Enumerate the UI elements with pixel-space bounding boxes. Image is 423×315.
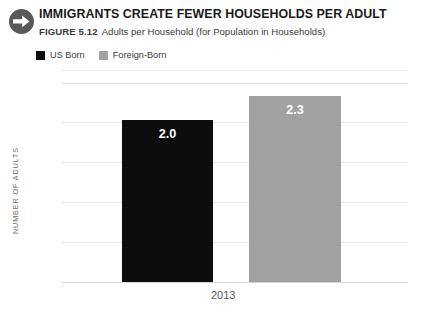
arrow-right-circle-icon bbox=[9, 9, 34, 34]
bar-value-us-born: 2.0 bbox=[122, 127, 213, 141]
x-tick-2013: 2013 bbox=[211, 289, 235, 301]
chart-legend: US Born Foreign-Born bbox=[36, 48, 180, 62]
legend-item-foreign-born: Foreign-Born bbox=[99, 50, 167, 60]
gridline-1-5 bbox=[62, 162, 408, 163]
plot-area: 2.5 2.0 1.5 1.0 0.5 0.0 2.0 2.3 bbox=[62, 71, 408, 283]
gridline-2-5 bbox=[62, 83, 408, 84]
bar-us-born: 2.0 bbox=[122, 120, 213, 282]
gridline-2-0 bbox=[62, 122, 408, 123]
y-axis-title-text: NUMBER OF ADULTS bbox=[11, 147, 20, 234]
figure-subtitle: Adults per Household (for Population in … bbox=[102, 26, 325, 37]
figure-number: FIGURE 5.12 bbox=[39, 26, 98, 37]
bar-foreign-born: 2.3 bbox=[249, 96, 341, 282]
axis-baseline bbox=[62, 282, 408, 283]
legend-label-foreign-born: Foreign-Born bbox=[113, 50, 167, 60]
figure-caption: FIGURE 5.12Adults per Household (for Pop… bbox=[39, 26, 325, 38]
legend-swatch-foreign-born bbox=[99, 51, 108, 60]
legend-swatch-us-born bbox=[36, 51, 45, 60]
gridline-1-0 bbox=[62, 202, 408, 203]
legend-label-us-born: US Born bbox=[50, 50, 85, 60]
gridline-0-5 bbox=[62, 242, 408, 243]
legend-item-us-born: US Born bbox=[36, 50, 85, 60]
x-axis-tick-label: 2013 bbox=[62, 289, 408, 301]
y-axis-title: NUMBER OF ADULTS bbox=[8, 135, 22, 245]
bar-value-foreign-born: 2.3 bbox=[249, 103, 341, 117]
page-title: IMMIGRANTS CREATE FEWER HOUSEHOLDS PER A… bbox=[39, 7, 387, 21]
chart-header: IMMIGRANTS CREATE FEWER HOUSEHOLDS PER A… bbox=[0, 0, 423, 46]
